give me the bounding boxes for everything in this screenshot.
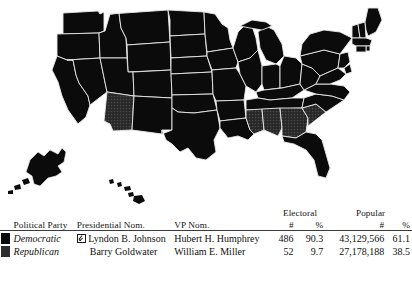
us-election-map bbox=[0, 0, 412, 212]
state-CT bbox=[356, 46, 366, 52]
state-MI bbox=[258, 26, 284, 64]
state-NM bbox=[132, 96, 172, 134]
column-header-president: Presidential Nom. bbox=[77, 218, 174, 230]
state-AR bbox=[216, 100, 246, 121]
column-header-electoral-num: # bbox=[271, 218, 298, 230]
party-color-swatch-cell bbox=[0, 231, 12, 245]
column-header-party: Political Party bbox=[12, 218, 77, 230]
group-header-row: Electoral Popular bbox=[0, 206, 412, 218]
state-SD bbox=[170, 34, 207, 58]
state-IA bbox=[207, 48, 238, 70]
table-row: Republican Barry Goldwater William E. Mi… bbox=[0, 244, 412, 257]
group-header-popular: Popular bbox=[329, 206, 412, 218]
column-header-electoral-pct: % bbox=[298, 218, 330, 230]
state-IN bbox=[262, 64, 280, 90]
state-WA bbox=[63, 11, 104, 34]
state-ND bbox=[168, 10, 205, 36]
presidential-nominee-cell: Lyndon B. Johnson bbox=[77, 231, 174, 245]
table-row: Democratic Lyndon B. Johnson Hubert H. H… bbox=[0, 231, 412, 245]
swatch-democratic bbox=[1, 233, 10, 244]
party-name-cell: Democratic bbox=[12, 231, 77, 245]
state-HI bbox=[109, 179, 145, 204]
electoral-percent-cell: 90.3 bbox=[298, 231, 330, 245]
map-states bbox=[8, 8, 382, 204]
election-map-figure: Electoral Popular Political Party Presid… bbox=[0, 0, 412, 281]
spacer-cell bbox=[0, 206, 12, 218]
state-AZ bbox=[104, 92, 134, 131]
presidential-nominee-cell: Barry Goldwater bbox=[77, 244, 174, 257]
electoral-votes-cell: 52 bbox=[271, 244, 298, 257]
electoral-percent-cell: 9.7 bbox=[298, 244, 330, 257]
popular-votes-cell: 27,178,188 bbox=[329, 244, 388, 257]
electoral-votes-cell: 486 bbox=[271, 231, 298, 245]
presidential-nominee-label: Barry Goldwater bbox=[77, 246, 157, 257]
state-ME bbox=[365, 8, 382, 36]
state-CO bbox=[133, 70, 172, 98]
election-results-table: Electoral Popular Political Party Presid… bbox=[0, 206, 412, 281]
results-table: Electoral Popular Political Party Presid… bbox=[0, 206, 412, 257]
column-header-popular-pct: % bbox=[388, 218, 412, 230]
popular-percent-cell: 38.5 bbox=[388, 244, 412, 257]
group-header-electoral: Electoral bbox=[271, 206, 329, 218]
popular-votes-cell: 43,129,566 bbox=[329, 231, 388, 245]
spacer-cell bbox=[0, 218, 12, 230]
spacer-cell bbox=[174, 206, 271, 218]
swatch-republican bbox=[1, 246, 10, 257]
presidential-nominee-label: Lyndon B. Johnson bbox=[88, 233, 166, 244]
state-NE bbox=[171, 56, 212, 74]
state-AK bbox=[8, 148, 66, 194]
state-OH bbox=[280, 56, 302, 88]
state-RI bbox=[366, 46, 370, 51]
winner-checkbox-icon bbox=[77, 234, 86, 243]
vp-nominee-cell: Hubert H. Humphrey bbox=[174, 231, 271, 245]
spacer-cell bbox=[12, 206, 77, 218]
spacer-cell bbox=[77, 206, 174, 218]
column-header-popular-num: # bbox=[329, 218, 388, 230]
party-label: Democratic bbox=[14, 233, 61, 244]
state-AL bbox=[262, 108, 282, 136]
column-header-row: Political Party Presidential Nom. VP Nom… bbox=[0, 218, 412, 230]
state-FL bbox=[282, 132, 330, 178]
popular-percent-cell: 61.1 bbox=[388, 231, 412, 245]
state-OK bbox=[172, 94, 217, 113]
party-label: Republican bbox=[14, 246, 60, 257]
party-color-swatch-cell bbox=[0, 244, 12, 257]
state-OR bbox=[57, 33, 100, 60]
state-MA bbox=[352, 38, 372, 46]
map-svg bbox=[0, 0, 412, 212]
state-WY bbox=[127, 42, 171, 72]
vp-nominee-cell: William E. Miller bbox=[174, 244, 271, 257]
party-name-cell: Republican bbox=[12, 244, 77, 257]
column-header-vp: VP Nom. bbox=[174, 218, 271, 230]
state-KS bbox=[171, 72, 213, 95]
state-MN bbox=[204, 12, 233, 52]
